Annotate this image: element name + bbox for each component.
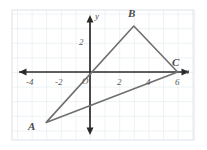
grid-lines [12, 10, 194, 140]
coordinate-plane-figure: -4 -2 O 2 4 6 2 A B C x y [0, 0, 207, 150]
coordinate-plane-svg [0, 0, 207, 150]
